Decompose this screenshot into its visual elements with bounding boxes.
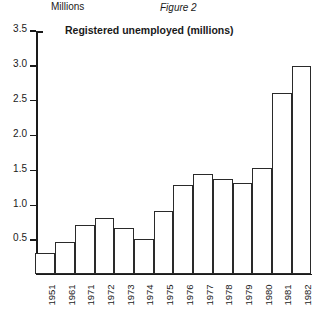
y-axis-unit-label: Millions <box>51 1 84 13</box>
bar-1951 <box>35 253 55 274</box>
figure-caption: Figure 2 <box>160 2 197 14</box>
bar-cell <box>135 31 155 274</box>
bar-cell <box>194 31 214 274</box>
bar-1976 <box>173 185 193 274</box>
y-axis-tick-label: 2.0 <box>13 128 27 140</box>
bar-cell <box>75 31 95 274</box>
bar-1982 <box>292 66 312 274</box>
plot-area: 0.51.01.52.02.53.03.5 <box>36 31 312 275</box>
x-axis-label-cell: 1980 <box>253 278 273 322</box>
x-axis-label-cell: 1971 <box>75 278 95 322</box>
bar-1971 <box>75 225 95 274</box>
y-axis-tick-label: 3.0 <box>13 58 27 70</box>
y-axis-tick-label: 1.0 <box>13 198 27 210</box>
x-axis-label-cell: 1972 <box>95 278 115 322</box>
x-axis-label-cell: 1976 <box>174 278 194 322</box>
bar-series <box>36 31 312 274</box>
x-axis-line <box>36 274 312 276</box>
x-axis-label-cell: 1979 <box>233 278 253 322</box>
bar-cell <box>233 31 253 274</box>
bar-cell <box>36 31 56 274</box>
y-axis-tick-label: 1.5 <box>13 163 27 175</box>
x-axis-label-cell: 1975 <box>154 278 174 322</box>
bar-1972 <box>95 218 115 273</box>
bar-1974 <box>134 239 154 274</box>
bar-cell <box>292 31 312 274</box>
x-axis-tick-label-1982: 1982 <box>302 284 313 305</box>
y-axis-tick-label: 0.5 <box>13 232 27 244</box>
figure-container: Millions Figure 2 Registered unemployed … <box>0 0 326 322</box>
bar-1975 <box>154 211 174 273</box>
bar-1981 <box>272 93 292 273</box>
bar-1978 <box>213 179 233 274</box>
bar-1980 <box>252 168 272 273</box>
bar-cell <box>95 31 115 274</box>
x-axis-label-cell: 1977 <box>194 278 214 322</box>
x-axis-label-cell: 1973 <box>115 278 135 322</box>
bar-1979 <box>233 183 253 273</box>
x-axis-tick-labels: 1951196119711972197319741975197619771978… <box>36 278 312 322</box>
bar-cell <box>115 31 135 274</box>
x-axis-label-cell: 1974 <box>135 278 155 322</box>
bar-1961 <box>55 242 75 273</box>
bar-cell <box>213 31 233 274</box>
y-axis-tick-label: 2.5 <box>13 93 27 105</box>
x-axis-label-cell: 1978 <box>213 278 233 322</box>
bar-cell <box>56 31 76 274</box>
bar-cell <box>174 31 194 274</box>
bar-cell <box>253 31 273 274</box>
x-axis-label-cell: 1961 <box>56 278 76 322</box>
x-axis-label-cell: 1981 <box>273 278 293 322</box>
x-axis-label-cell: 1982 <box>292 278 312 322</box>
y-axis-tick-label: 3.5 <box>13 23 27 35</box>
x-axis-label-cell: 1951 <box>36 278 56 322</box>
bar-cell <box>154 31 174 274</box>
bar-cell <box>273 31 293 274</box>
bar-1977 <box>193 174 213 273</box>
bar-1973 <box>114 228 134 273</box>
